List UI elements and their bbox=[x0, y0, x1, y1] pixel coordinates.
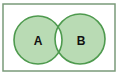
venn-diagram: A B bbox=[0, 0, 119, 78]
set-a-label: A bbox=[34, 34, 43, 48]
set-b-label: B bbox=[77, 34, 86, 48]
